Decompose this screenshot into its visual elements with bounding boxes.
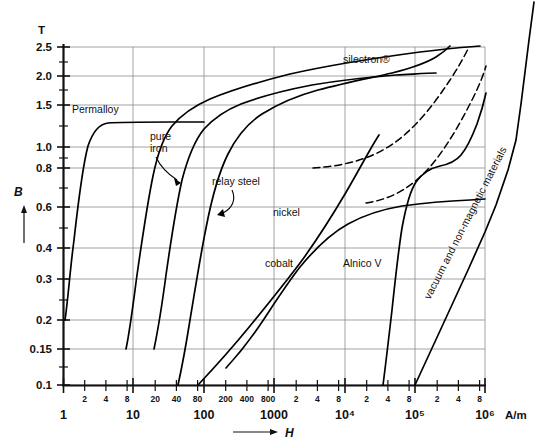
alnico-label: Alnico V <box>343 257 382 269</box>
bh-magnetization-chart: 2.5 2.0 1.5 1.0 0.8 0.6 0.4 0.3 0.2 0.15… <box>0 0 535 444</box>
pure-iron-label-line2: iron <box>150 142 168 154</box>
x-minor-label: 8 <box>407 394 412 404</box>
y-axis-title: B <box>14 185 23 199</box>
x-minor-label: 2 <box>294 394 299 404</box>
relay-steel-annotation: relay steel <box>212 175 260 217</box>
y-tick-label: 0.8 <box>36 162 53 174</box>
permalloy-label: Permalloy <box>72 103 119 115</box>
x-major-label: 10 <box>126 408 140 422</box>
y-axis-unit-label: T <box>38 24 45 36</box>
x-minor-label: 40 <box>172 394 182 404</box>
x-minor-label: 8 <box>125 394 130 404</box>
x-major-label: 100 <box>194 408 215 422</box>
x-minor-label: 800 <box>261 394 275 404</box>
x-minor-label: 4 <box>456 394 461 404</box>
x-axis-title-group: H <box>233 426 294 440</box>
x-major-label: 1 <box>60 408 67 422</box>
x-minor-label: 400 <box>240 394 254 404</box>
x-minor-label: 2 <box>364 394 369 404</box>
x-major-label: 10⁴ <box>335 408 355 422</box>
relay-steel-arrow <box>217 209 225 217</box>
y-tick-label: 0.3 <box>36 273 52 285</box>
pure-iron-leader <box>156 157 177 180</box>
x-minor-label: 2 <box>435 394 440 404</box>
x-minor-label: 20 <box>150 394 160 404</box>
pure-iron-label-line1: pure <box>150 130 171 142</box>
x-major-label: 10⁶ <box>475 408 495 422</box>
y-tick-label: 2.0 <box>36 70 52 82</box>
x-minor-label: 8 <box>477 394 482 404</box>
curve-nickel <box>226 199 485 368</box>
y-tick-label: 0.2 <box>36 314 52 326</box>
x-minor-label: 4 <box>315 394 320 404</box>
pure-iron-arrow <box>174 178 181 186</box>
cobalt-label: cobalt <box>265 257 293 269</box>
grid-vertical <box>133 47 485 385</box>
pure-iron-annotation: pure iron <box>150 130 181 186</box>
x-axis-title: H <box>285 426 294 440</box>
y-tick-label: 1.0 <box>36 141 52 153</box>
y-tick-label: 0.4 <box>36 242 53 254</box>
curve-dashed-upper <box>313 49 468 168</box>
y-tick-label: 0.15 <box>30 343 53 355</box>
y-axis-title-group: B <box>14 185 27 243</box>
x-minor-label: 4 <box>386 394 391 404</box>
relay-steel-leader <box>223 190 234 213</box>
y-tick-label: 0.6 <box>36 201 52 213</box>
x-minor-label: 2 <box>82 394 87 404</box>
x-major-label: 10⁵ <box>405 408 425 422</box>
y-tick-label: 1.5 <box>36 99 53 111</box>
y-tick-label: 2.5 <box>36 41 53 53</box>
y-axis-tick-labels: 2.5 2.0 1.5 1.0 0.8 0.6 0.4 0.3 0.2 0.15… <box>30 41 53 391</box>
relay-steel-label: relay steel <box>212 175 260 187</box>
x-minor-label: 8 <box>336 394 341 404</box>
curve-silectron <box>178 46 450 385</box>
curve-dashed-lower <box>366 66 486 203</box>
x-minor-label: 4 <box>104 394 109 404</box>
x-minor-label: 200 <box>219 394 233 404</box>
x-minor-label: 80 <box>193 394 203 404</box>
y-tick-label: 0.1 <box>36 379 53 391</box>
x-axis-unit-label: A/m <box>505 409 527 421</box>
x-major-label: 1000 <box>260 408 288 422</box>
x-axis-major-labels: 1 10 100 1000 10⁴ 10⁵ 10⁶ <box>60 408 495 422</box>
nickel-label: nickel <box>273 206 300 218</box>
x-axis-minor-labels: 2 4 8 20 40 80 200 400 800 2 4 8 2 4 8 2… <box>82 394 482 404</box>
chart-svg: 2.5 2.0 1.5 1.0 0.8 0.6 0.4 0.3 0.2 0.15… <box>0 0 535 444</box>
silectron-label: silectron® <box>343 53 390 65</box>
